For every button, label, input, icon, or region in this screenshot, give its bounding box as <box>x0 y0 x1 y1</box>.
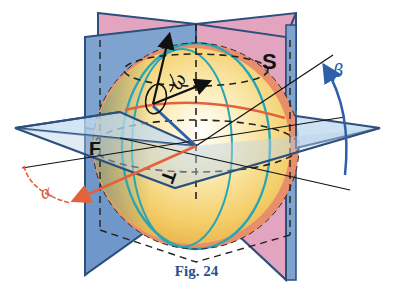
label-plane-f: F <box>89 138 101 159</box>
label-plane-s: S <box>262 49 277 74</box>
label-alpha: α <box>36 180 55 203</box>
figure-caption: Fig. 24 <box>0 263 393 280</box>
label-beta: β <box>332 60 343 81</box>
sphere-planes-diagram: S F T ω α β <box>0 0 393 292</box>
